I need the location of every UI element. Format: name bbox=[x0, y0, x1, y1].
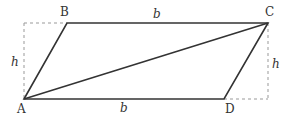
diagram-canvas bbox=[0, 0, 291, 118]
height-label-right: h bbox=[272, 58, 280, 70]
height-label-left: h bbox=[11, 56, 19, 68]
vertex-label-b: B bbox=[60, 6, 69, 18]
parallelogram-diagram: B b C h h A b D bbox=[0, 0, 291, 118]
vertex-label-d: D bbox=[225, 103, 235, 115]
side-label-bottom: b bbox=[120, 102, 128, 114]
vertex-label-a: A bbox=[17, 103, 26, 115]
vertex-label-c: C bbox=[265, 6, 274, 18]
side-label-top: b bbox=[153, 8, 161, 20]
